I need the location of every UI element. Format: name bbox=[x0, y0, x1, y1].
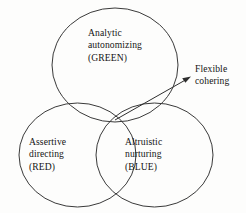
label-assertive-line2: directing bbox=[29, 148, 66, 160]
label-flexible-line2: cohering bbox=[195, 75, 229, 87]
flexible-cohering-leader-line bbox=[115, 79, 188, 121]
label-analytic-line3: (GREEN) bbox=[88, 52, 142, 64]
label-assertive-line3: (RED) bbox=[29, 161, 66, 173]
label-flexible-cohering: Flexible cohering bbox=[195, 63, 229, 88]
label-altruistic-line1: Altruistic bbox=[125, 136, 162, 148]
label-altruistic-line3: (BLUE) bbox=[125, 161, 162, 173]
venn-diagram: Analytic autonomizing (GREEN) Assertive … bbox=[0, 0, 246, 213]
flexible-cohering-arrowhead bbox=[182, 77, 191, 83]
label-assertive-directing: Assertive directing (RED) bbox=[29, 136, 66, 173]
circle-analytic-autonomizing bbox=[52, 8, 178, 122]
label-assertive-line1: Assertive bbox=[29, 136, 66, 148]
label-analytic-line2: autonomizing bbox=[88, 39, 142, 51]
label-altruistic-nurturing: Altruistic nurturing (BLUE) bbox=[125, 136, 162, 173]
label-analytic-line1: Analytic bbox=[88, 27, 142, 39]
label-flexible-line1: Flexible bbox=[195, 63, 229, 75]
label-analytic-autonomizing: Analytic autonomizing (GREEN) bbox=[88, 27, 142, 64]
label-altruistic-line2: nurturing bbox=[125, 148, 162, 160]
